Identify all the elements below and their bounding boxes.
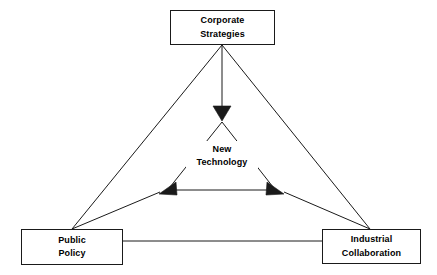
node-public-policy-line2: Policy [58,247,85,260]
arrowhead-down-center [213,106,231,121]
node-public-policy[interactable]: Public Policy [21,229,123,265]
node-industrial-collaboration-line1: Industrial [351,233,393,246]
diagram-canvas: Corporate Strategies Public Policy Indus… [0,0,437,275]
node-corporate-strategies-line1: Corporate [201,14,245,27]
node-public-policy-line1: Public [58,234,86,247]
connector-corporate-to-industrial-collaboration [222,45,370,229]
connector-industrial-collaboration-to-center-shaft [284,192,370,229]
node-new-technology-line2: Technology [197,156,248,169]
node-industrial-collaboration[interactable]: Industrial Collaboration [322,229,421,264]
node-corporate-strategies[interactable]: Corporate Strategies [170,10,275,45]
node-new-technology-line1: New [213,143,232,156]
connector-public-policy-to-center-shaft [72,192,160,229]
node-new-technology: New Technology [186,141,258,171]
node-corporate-strategies-line2: Strategies [200,28,245,41]
node-industrial-collaboration-line2: Collaboration [342,247,401,260]
arrowhead-down-left [159,182,177,195]
arrowhead-down-right [266,182,284,195]
connector-corporate-to-public-policy [72,45,222,229]
